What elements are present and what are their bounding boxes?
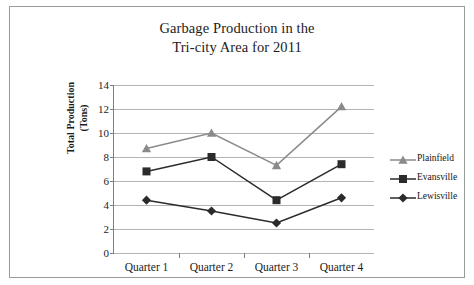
chart-title-line-1: Garbage Production in the [10, 19, 464, 38]
y-tick-label: 14 [83, 79, 109, 91]
legend-item-evansville[interactable]: Evansville [390, 167, 474, 186]
x-tick-label: Quarter 4 [299, 261, 385, 273]
triangle-icon [390, 152, 416, 164]
chart-legend: PlainfieldEvansvilleLewisville [390, 148, 474, 205]
diamond-marker-icon [207, 206, 216, 215]
series-evansville [143, 153, 346, 204]
chart-title-line-2: Tri-city Area for 2011 [10, 38, 464, 57]
plot-area: 14121086420 Quarter 1Quarter 2Quarter 3Q… [113, 85, 374, 254]
triangle-marker-icon [337, 102, 346, 110]
legend-label: Plainfield [417, 153, 454, 163]
triangle-marker-icon [207, 128, 216, 136]
series-line [147, 157, 342, 200]
chart-container: Garbage Production in the Tri-city Area … [9, 6, 465, 278]
square-marker-icon [338, 160, 346, 168]
series-line [147, 198, 342, 223]
y-axis-label-line-1: Total Production [65, 63, 78, 173]
diamond-marker-icon [272, 218, 281, 227]
legend-label: Lewisville [417, 191, 457, 201]
diamond-icon [390, 190, 416, 202]
legend-item-plainfield[interactable]: Plainfield [390, 148, 474, 167]
diamond-marker-icon [337, 193, 346, 202]
series-line [147, 107, 342, 166]
diamond-marker-icon [142, 196, 151, 205]
legend-item-lewisville[interactable]: Lewisville [390, 186, 474, 205]
y-tick-label: 10 [83, 127, 109, 139]
series-lewisville [142, 193, 346, 227]
diamond-marker-icon [398, 193, 407, 202]
y-tick-label: 6 [83, 175, 109, 187]
square-marker-icon [399, 175, 407, 183]
square-marker-icon [143, 167, 151, 175]
series-layer [114, 85, 374, 254]
square-icon [390, 171, 416, 183]
chart-title: Garbage Production in the Tri-city Area … [10, 19, 464, 58]
y-tick-label: 0 [83, 247, 109, 259]
square-marker-icon [273, 196, 281, 204]
y-tick-label: 2 [83, 223, 109, 235]
series-plainfield [142, 102, 346, 169]
square-marker-icon [208, 153, 216, 161]
y-tick-label: 4 [83, 199, 109, 211]
legend-label: Evansville [417, 172, 457, 182]
y-tick-label: 12 [83, 103, 109, 115]
y-tick-label: 8 [83, 151, 109, 163]
